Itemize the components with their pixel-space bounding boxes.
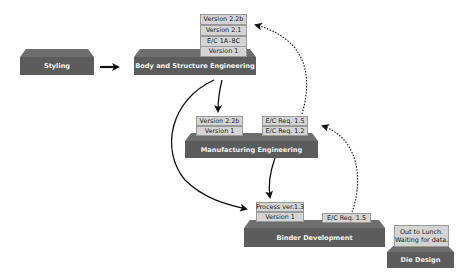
tag-binder-version-1: Version 1 [256, 212, 304, 222]
die-design-note: Out to Lunch. Waiting for data. [394, 225, 449, 247]
note-line-1: Out to Lunch. [400, 229, 443, 235]
stage-styling: Styling [20, 49, 94, 75]
tag-body-version-2-2b: Version 2.2b [200, 14, 247, 25]
stage-binder-development: Binder Development [244, 220, 385, 247]
tag-binder-ec-req-1-5: E/C Req. 1.5 [322, 213, 371, 223]
dotted-arrow-binder-to-manufacturing [323, 126, 358, 212]
dotted-arrow-manufacturing-to-body [256, 25, 307, 114]
arrow-body-to-manufacturing [218, 80, 222, 111]
workflow-diagram: Styling Version 2.2b Version 2.1 E/C 1A–… [0, 0, 472, 280]
stage-lid [20, 49, 94, 57]
arrow-manufacturing-to-binder [269, 158, 275, 197]
stage-die-design: Die Design [387, 246, 454, 268]
tag-mfg-version-2-2b: Version 2.2b [196, 116, 243, 126]
stage-label-manufacturing: Manufacturing Engineering [185, 141, 318, 158]
stage-label-die: Die Design [387, 252, 454, 268]
tag-mfg-version-1: Version 1 [196, 126, 243, 136]
stage-manufacturing-engineering: Manufacturing Engineering [185, 133, 318, 158]
tag-mfg-ec-req-1-2: E/C Req. 1.2 [262, 126, 308, 136]
stage-label-binder: Binder Development [244, 228, 385, 247]
stage-label-body-structure: Body and Structure Engineering [134, 57, 256, 75]
stage-label-styling: Styling [20, 57, 94, 75]
tag-body-version-1-front: Version 1 [200, 46, 247, 57]
tag-mfg-ec-req-1-5: E/C Req. 1.5 [262, 116, 308, 126]
note-line-2: Waiting for data. [395, 237, 448, 243]
tag-body-version-2-1: Version 2.1 [200, 25, 247, 36]
tag-binder-process-ver-1-3: Process ver.1.3 [256, 202, 304, 212]
